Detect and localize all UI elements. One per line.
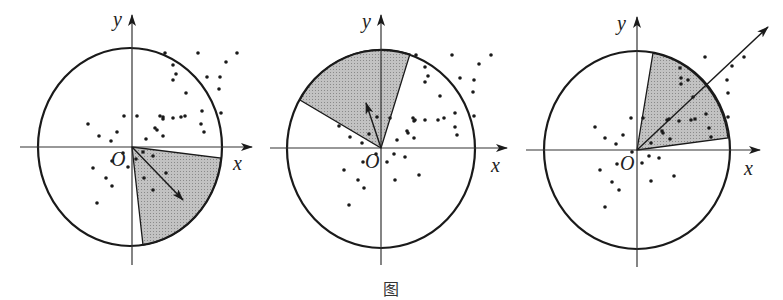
origin-label: O <box>365 150 379 172</box>
data-point <box>726 91 730 95</box>
data-point <box>217 87 221 91</box>
data-point <box>337 124 341 128</box>
data-point <box>347 203 351 207</box>
data-point <box>151 154 155 158</box>
data-point <box>436 118 440 122</box>
data-point <box>725 78 729 82</box>
data-point <box>453 125 457 129</box>
data-point <box>161 117 165 121</box>
data-point <box>91 166 95 170</box>
data-point <box>199 122 203 126</box>
data-point <box>709 135 713 139</box>
shaded-sector <box>300 49 410 148</box>
x-axis-label: x <box>743 157 753 179</box>
data-point <box>235 51 239 55</box>
data-point <box>472 78 476 82</box>
data-point <box>392 152 396 156</box>
data-point <box>218 75 222 79</box>
data-point <box>97 134 101 138</box>
data-point <box>672 174 676 178</box>
origin-label: O <box>620 152 634 174</box>
data-point <box>224 60 228 64</box>
data-point <box>417 173 421 177</box>
data-point <box>730 64 734 68</box>
data-point <box>348 135 352 139</box>
data-point <box>135 114 139 118</box>
data-point <box>472 114 476 118</box>
data-point <box>450 53 454 57</box>
data-point <box>179 115 183 119</box>
data-point <box>388 116 392 120</box>
x-axis-label: x <box>490 154 500 176</box>
data-point <box>617 188 621 192</box>
data-point <box>205 75 209 79</box>
data-point <box>458 76 462 80</box>
data-point <box>171 78 175 82</box>
data-point <box>647 154 651 158</box>
data-point <box>726 115 730 119</box>
data-point <box>144 137 148 141</box>
data-point <box>649 179 653 183</box>
data-point <box>657 156 661 160</box>
data-point <box>426 74 430 78</box>
data-point <box>403 155 407 159</box>
data-point <box>183 114 187 118</box>
data-point <box>395 138 399 142</box>
data-point <box>667 117 671 121</box>
y-axis-label: y <box>615 12 626 35</box>
data-point <box>615 162 619 166</box>
data-point <box>151 188 155 192</box>
data-point <box>115 130 119 134</box>
data-point <box>126 165 130 169</box>
x-axis-label: x <box>232 152 242 174</box>
data-point <box>610 180 614 184</box>
data-point <box>423 65 427 69</box>
data-point <box>614 142 618 146</box>
data-point <box>686 78 690 82</box>
data-point <box>219 111 223 115</box>
data-point <box>641 116 645 120</box>
origin-label: O <box>111 148 125 170</box>
data-point <box>122 114 126 118</box>
data-point <box>471 90 475 94</box>
data-point <box>629 116 633 120</box>
data-point <box>360 141 364 145</box>
data-point <box>703 55 707 59</box>
data-point <box>155 128 159 132</box>
data-point <box>414 53 418 57</box>
data-point <box>202 130 206 134</box>
data-point <box>174 72 178 76</box>
shaded-sector <box>637 53 728 150</box>
data-point <box>693 117 697 121</box>
data-point <box>603 136 607 140</box>
data-point <box>356 178 360 182</box>
data-point <box>668 137 672 141</box>
data-point <box>423 80 427 84</box>
data-point <box>442 116 446 120</box>
data-point <box>163 51 167 55</box>
data-point <box>640 161 644 165</box>
data-point <box>621 133 625 137</box>
data-point <box>707 126 711 130</box>
data-point <box>679 76 683 80</box>
y-axis-label: y <box>111 8 122 31</box>
data-point <box>184 91 188 95</box>
data-point <box>423 118 427 122</box>
data-point <box>678 66 682 70</box>
panel-2: xyO <box>270 10 507 265</box>
data-point <box>679 82 683 86</box>
data-point <box>134 157 138 161</box>
data-point <box>412 119 416 123</box>
data-point <box>375 115 379 119</box>
data-point <box>95 201 99 205</box>
data-point <box>704 112 708 116</box>
data-point <box>406 131 410 135</box>
data-point <box>109 139 113 143</box>
data-point <box>661 131 665 135</box>
data-point <box>171 116 175 120</box>
data-point <box>593 125 597 129</box>
data-point <box>677 119 681 123</box>
data-point <box>367 132 371 136</box>
data-point <box>196 51 200 55</box>
